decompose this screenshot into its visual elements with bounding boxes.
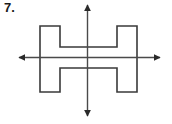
symmetry-figure-svg (0, 0, 172, 124)
h-shape-outline (40, 26, 137, 92)
figure-container: 7. (0, 0, 172, 124)
